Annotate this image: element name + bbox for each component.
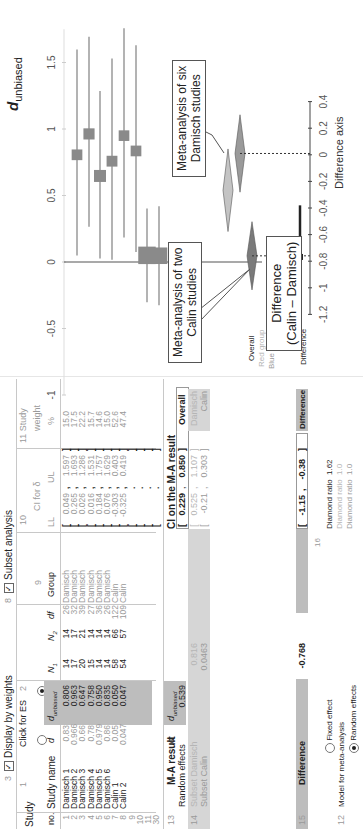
difference-axis-tick: 0 bbox=[318, 140, 329, 170]
difference-axis-tick: -0.2 bbox=[318, 166, 329, 196]
difference-axis-tick: -0.6 bbox=[318, 220, 329, 250]
d-axis-tick: 1.5 bbox=[46, 48, 57, 78]
d-axis-tick: 1 bbox=[46, 114, 57, 144]
callout-calin: Meta-analysis of two Calin studies bbox=[168, 242, 202, 363]
difference-axis-title: Difference axis bbox=[334, 116, 345, 189]
difference-axis-tick: 0.2 bbox=[318, 113, 329, 143]
difference-axis-tick: -0.4 bbox=[318, 193, 329, 223]
callout-difference: Difference (Calin – Damisch) bbox=[266, 236, 302, 351]
d-axis-tick: 0.5 bbox=[46, 181, 57, 211]
callout-damisch: Meta-analysis of six Damisch studies bbox=[172, 60, 206, 177]
d-axis-tick: -0.5 bbox=[46, 314, 57, 344]
difference-axis-tick: -0.8 bbox=[318, 246, 329, 276]
difference-axis-tick: -1 bbox=[318, 273, 329, 303]
difference-axis-tick: 0.4 bbox=[318, 87, 329, 117]
difference-axis-tick: -1.2 bbox=[318, 299, 329, 329]
esci-meta-analysis-page: 3 ✓Display by weights 8 ✓Subset analysis… bbox=[0, 0, 363, 829]
plot-axis-title: dunbiased bbox=[4, 57, 27, 111]
d-axis-tick: 0 bbox=[46, 247, 57, 277]
d-axis-tick: -1 bbox=[46, 380, 57, 410]
